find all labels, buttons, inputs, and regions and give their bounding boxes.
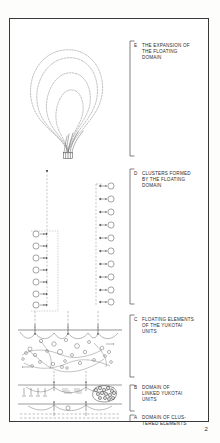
zone-caption-b: B DOMAIN OF LINKED YUKOTAI UNITS: [134, 385, 210, 404]
zone-label-b: DOMAIN OF LINKED YUKOTAI UNITS: [142, 385, 182, 404]
zone-b-lower-arrows: [54, 401, 86, 411]
figure-plate: E THE EXPANSION OF THE FLOATING DOMAIN D…: [9, 18, 209, 422]
zone-caption-d: D CLUSTERS FORMED BY THE FLOATING DOMAIN: [134, 171, 210, 190]
zone-caption-a: A DOMAIN OF CLUS- TERED ELEMENTS: [134, 415, 210, 427]
zone-caption-e: E THE EXPANSION OF THE FLOATING DOMAIN: [134, 43, 210, 62]
zone-b-small-ring: [66, 406, 70, 410]
zone-a-baseline: [20, 414, 120, 418]
page-canvas: E THE EXPANSION OF THE FLOATING DOMAIN D…: [0, 0, 220, 443]
zone-label-d: CLUSTERS FORMED BY THE FLOATING DOMAIN: [142, 171, 191, 190]
zone-label-a: DOMAIN OF CLUS- TERED ELEMENTS: [142, 415, 186, 427]
zone-letter-b: B: [134, 385, 139, 391]
zone-cd-risers: [35, 311, 98, 329]
zone-label-c: FLOATING ELEMENTS OF THE YUKOTAI UNITS: [142, 317, 194, 336]
zone-letter-c: C: [134, 317, 139, 323]
zone-b-dense-cluster: [94, 386, 115, 400]
zone-letter-d: D: [134, 171, 139, 177]
zone-d-cluster-left: [33, 231, 47, 308]
caption-column: E THE EXPANSION OF THE FLOATING DOMAIN D…: [126, 19, 210, 421]
zone-letter-e: E: [134, 43, 139, 49]
zone-e-neck-collar: [64, 153, 73, 159]
zone-letter-a: A: [134, 415, 139, 421]
zone-e-expansion-contours: [30, 50, 102, 152]
zone-cb-risers: [54, 371, 86, 383]
zone-d-cluster-right: [100, 183, 115, 305]
zone-caption-c: C FLOATING ELEMENTS OF THE YUKOTAI UNITS: [134, 317, 210, 336]
zone-brackets: [126, 19, 210, 421]
diagram-figure: [10, 19, 126, 421]
zone-c-swags: [20, 332, 118, 339]
zone-d-right-column: [96, 184, 103, 305]
zone-d-left-column-head: [46, 170, 48, 172]
zone-c-floating-elements: [22, 338, 113, 369]
zone-b-emission-arrows: [54, 381, 86, 391]
zone-label-e: THE EXPANSION OF THE FLOATING DOMAIN: [142, 43, 190, 62]
page-number: 2: [204, 426, 208, 432]
